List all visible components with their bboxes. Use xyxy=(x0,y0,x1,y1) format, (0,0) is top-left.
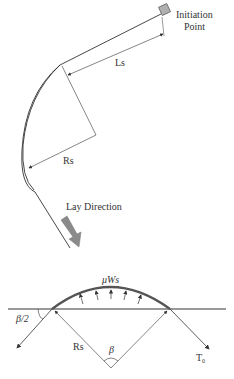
ls-dimension xyxy=(68,34,163,75)
rs-left-radius xyxy=(55,311,111,368)
initiation-label-2: Point xyxy=(184,21,205,32)
right-tension-line xyxy=(170,309,209,349)
beta-arc xyxy=(104,358,118,361)
pipe-route xyxy=(22,14,161,248)
half-beta-arc xyxy=(38,309,43,319)
rs-radius-line xyxy=(62,66,96,135)
initiation-point-square xyxy=(159,4,171,16)
rs-label-bottom: Rs xyxy=(73,341,84,352)
friction-arrows xyxy=(80,290,141,304)
initiation-label-1: Initiation xyxy=(176,9,213,20)
lay-direction-label: Lay Direction xyxy=(66,201,122,212)
beta-label: β xyxy=(108,344,114,355)
lay-direction-arrow xyxy=(61,216,81,247)
pipe-lay-diagram: Initiation Point Ls Rs Lay Direction μWs… xyxy=(0,0,234,379)
tension-label: T0 xyxy=(196,352,205,364)
friction-label: μWs xyxy=(101,274,119,285)
ls-label: Ls xyxy=(115,57,125,68)
half-beta-label: β/2 xyxy=(15,313,29,324)
rs-label-top: Rs xyxy=(63,155,74,166)
rs-right-radius xyxy=(111,311,167,368)
